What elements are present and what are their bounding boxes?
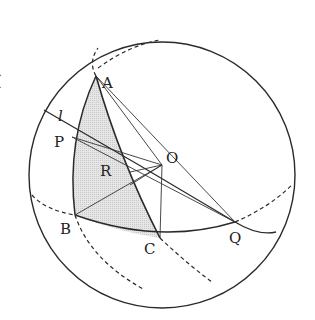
- label-a: A: [101, 74, 113, 92]
- segment-oc: [160, 165, 162, 238]
- label-p: P: [54, 133, 64, 151]
- dashed-arc-top: [92, 48, 98, 76]
- sphere-diagram: A P R O B C Q l (: [0, 0, 315, 320]
- label-c: C: [144, 240, 155, 258]
- dashed-arc-left: [32, 195, 75, 215]
- dashed-arc-c-down: [160, 238, 212, 282]
- dashed-arc-q-right: [235, 185, 292, 222]
- label-o: O: [166, 149, 178, 167]
- label-r: R: [100, 162, 112, 180]
- label-q: Q: [229, 229, 241, 247]
- label-l: l: [58, 107, 63, 125]
- label-b: B: [60, 220, 71, 238]
- edge-mark: (: [0, 72, 2, 90]
